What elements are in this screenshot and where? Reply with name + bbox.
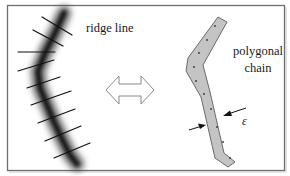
chain-vertex — [229, 157, 231, 159]
chain-vertex — [198, 52, 200, 54]
chain-vertex — [222, 141, 224, 143]
chain-vertex — [193, 66, 195, 68]
ridge-to-polygon-diagram: ridge line polygonal chain ε — [0, 0, 290, 176]
chain-vertex — [216, 126, 218, 128]
chain-vertex — [210, 108, 212, 110]
polygonal-chain-label-line2: chain — [244, 61, 272, 75]
chain-vertex — [203, 93, 205, 95]
chain-vertex — [195, 80, 197, 82]
ridge-line-label: ridge line — [86, 21, 134, 35]
polygonal-chain-label-line1: polygonal — [233, 44, 284, 58]
epsilon-label: ε — [242, 114, 247, 128]
chain-vertex — [206, 39, 208, 41]
chain-vertex — [214, 25, 216, 27]
